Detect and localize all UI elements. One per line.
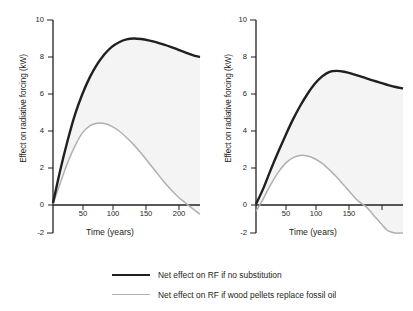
shaded-band-left — [53, 38, 200, 214]
x-tick-marks-left — [83, 205, 179, 210]
y-tick-marks-right — [250, 20, 256, 233]
figure-radiative-forcing: Effect on radiative forcing (kW) 10 8 6 … — [0, 0, 413, 311]
chart-panel-left: Effect on radiative forcing (kW) 10 8 6 … — [0, 0, 206, 262]
legend-label-no-substitution: Net effect on RF if no substitution — [158, 268, 282, 282]
chart-panel-right: Effect on radiative forcing (kW) 10 8 6 … — [205, 0, 411, 262]
plot-area-right — [205, 0, 411, 262]
legend: Net effect on RF if no substitution Net … — [0, 264, 413, 311]
legend-label-substitution: Net effect on RF if wood pellets replace… — [158, 288, 336, 302]
y-tick-marks-left — [47, 20, 53, 233]
legend-swatch-black-line — [112, 274, 150, 276]
plot-area-left — [0, 0, 206, 262]
legend-swatch-gray-line — [112, 294, 150, 295]
